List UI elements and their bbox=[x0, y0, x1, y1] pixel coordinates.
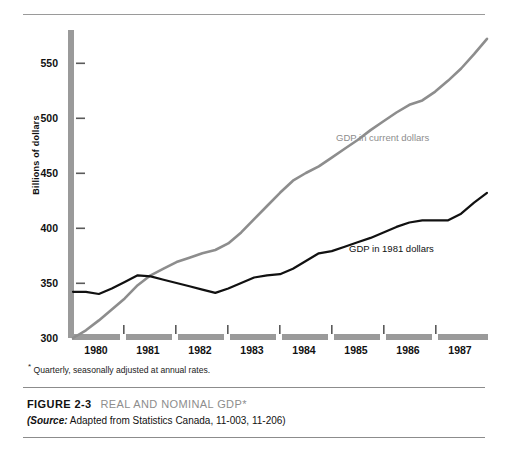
x-tick-6 bbox=[383, 325, 385, 334]
y-tick-label-350: 350 bbox=[26, 277, 58, 289]
x-tick-5 bbox=[331, 325, 333, 334]
figure-title: REAL AND NOMINAL GDP* bbox=[101, 398, 247, 410]
x-tick-3 bbox=[227, 325, 229, 334]
x-axis-segment-1986 bbox=[386, 334, 432, 340]
x-tick-7 bbox=[435, 325, 437, 334]
series-label-gdp-current-dollars: GDP in current dollars bbox=[336, 132, 429, 143]
chart-footnote: * Quarterly, seasonally adjusted at annu… bbox=[28, 362, 210, 375]
y-tick-label-500: 500 bbox=[26, 112, 58, 124]
y-tick-500 bbox=[76, 118, 85, 120]
x-axis-segment-1982 bbox=[178, 334, 224, 340]
x-axis-segment-1987 bbox=[438, 334, 488, 340]
y-tick-400 bbox=[76, 228, 85, 230]
y-tick-label-450: 450 bbox=[26, 167, 58, 179]
bottom-divider-rule bbox=[23, 437, 485, 438]
chart-plot-area: Billions of dollars 550 500 450 400 350 … bbox=[0, 0, 507, 370]
x-axis-segment-1984 bbox=[282, 334, 328, 340]
x-axis-segment-1981 bbox=[126, 334, 172, 340]
x-tick-label-1980: 1980 bbox=[70, 344, 122, 356]
source-text: Adapted from Statistics Canada, 11-003, … bbox=[68, 415, 286, 426]
x-tick-4 bbox=[279, 325, 281, 334]
y-tick-label-550: 550 bbox=[26, 57, 58, 69]
x-tick-label-1982: 1982 bbox=[174, 344, 226, 356]
series-label-gdp-1981-dollars: GDP in 1981 dollars bbox=[349, 243, 434, 254]
x-axis-segment-1983 bbox=[230, 334, 276, 340]
y-tick-550 bbox=[76, 63, 85, 65]
x-tick-label-1981: 1981 bbox=[122, 344, 174, 356]
x-tick-label-1987: 1987 bbox=[434, 344, 486, 356]
footnote-text: Quarterly, seasonally adjusted at annual… bbox=[34, 365, 211, 375]
footnote-marker: * bbox=[28, 362, 31, 371]
caption-divider-rule bbox=[23, 387, 485, 388]
figure-number: FIGURE 2-3 bbox=[27, 398, 92, 410]
figure-caption: FIGURE 2-3REAL AND NOMINAL GDP* bbox=[27, 394, 247, 412]
series-line-gdp-current-dollars bbox=[73, 39, 487, 338]
x-tick-label-1986: 1986 bbox=[382, 344, 434, 356]
x-axis-segment-1985 bbox=[334, 334, 380, 340]
x-tick-1 bbox=[123, 325, 125, 334]
x-tick-label-1985: 1985 bbox=[330, 344, 382, 356]
figure-source: (Source: Adapted from Statistics Canada,… bbox=[27, 415, 286, 426]
x-tick-label-1983: 1983 bbox=[226, 344, 278, 356]
y-tick-450 bbox=[76, 173, 85, 175]
x-tick-2 bbox=[175, 325, 177, 334]
y-tick-label-400: 400 bbox=[26, 222, 58, 234]
source-prefix: (Source: bbox=[27, 415, 68, 426]
y-tick-label-300: 300 bbox=[26, 332, 58, 344]
y-tick-350 bbox=[76, 283, 85, 285]
x-tick-label-1984: 1984 bbox=[278, 344, 330, 356]
figure-container: Billions of dollars 550 500 450 400 350 … bbox=[0, 0, 507, 451]
chart-svg bbox=[0, 0, 507, 370]
